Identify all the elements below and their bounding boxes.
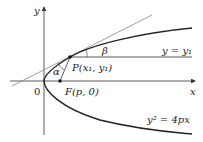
beta-arc xyxy=(86,49,87,57)
alpha-label: α xyxy=(53,66,60,77)
y-axis-label: y xyxy=(33,5,40,16)
parabola-equation: y² = 4px xyxy=(146,114,190,125)
x-axis-label: x xyxy=(190,86,196,97)
focus-point xyxy=(59,80,62,83)
focus-label: F(p, 0) xyxy=(64,86,99,97)
beta-label: β xyxy=(101,45,108,56)
horizontal-line-label: y = y₁ xyxy=(161,45,192,56)
diagram-canvas: y x 0 P(x₁, y₁) F(p, 0) y = y₁ y² = 4px … xyxy=(0,0,203,142)
point-p xyxy=(68,55,72,59)
origin-label: 0 xyxy=(34,86,40,97)
point-p-label: P(x₁, y₁) xyxy=(71,62,112,73)
parabola-reflection-diagram: y x 0 P(x₁, y₁) F(p, 0) y = y₁ y² = 4px … xyxy=(0,0,203,142)
